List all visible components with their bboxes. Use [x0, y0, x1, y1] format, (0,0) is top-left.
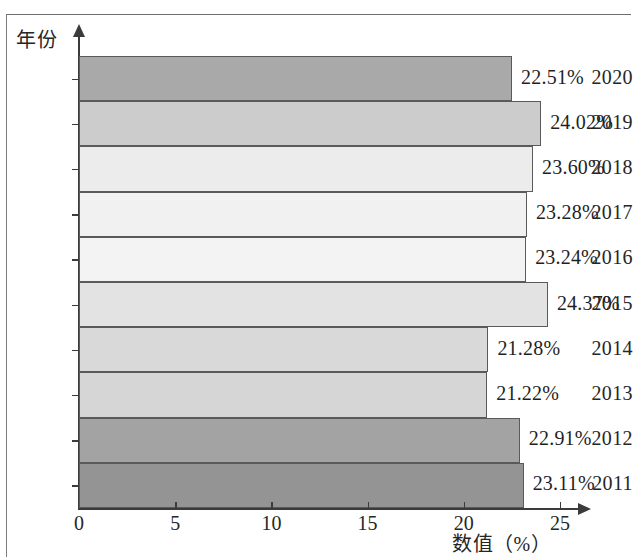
y-tick-mark-2013 [72, 395, 79, 396]
y-tick-mark-2016 [72, 259, 79, 260]
y-tick-label-2014: 2014 [571, 337, 633, 360]
bar-2016 [79, 237, 526, 282]
y-tick-mark-2012 [72, 440, 79, 441]
x-tick-label-10: 10 [251, 512, 291, 535]
value-label-2017: 23.28% [536, 201, 599, 224]
value-label-2015: 24.37% [557, 292, 620, 315]
x-tick-label-5: 5 [155, 512, 195, 535]
y-tick-label-2013: 2013 [571, 382, 633, 405]
bar-2015 [79, 282, 548, 327]
value-label-2011: 23.11% [533, 472, 595, 495]
x-tick-mark-15 [368, 502, 369, 509]
bar-2017 [79, 192, 527, 237]
bar-2020 [79, 56, 512, 101]
value-label-2016: 23.24% [535, 246, 598, 269]
bar-2014 [79, 327, 488, 372]
y-tick-mark-2014 [72, 350, 79, 351]
y-tick-mark-2019 [72, 124, 79, 125]
x-tick-label-0: 0 [59, 512, 99, 535]
bar-2011 [79, 463, 524, 508]
bar-2013 [79, 372, 487, 417]
bar-2018 [79, 146, 533, 191]
bar-2019 [79, 101, 541, 146]
y-tick-mark-2015 [72, 305, 79, 306]
value-label-2014: 21.28% [497, 337, 560, 360]
value-label-2019: 24.02% [550, 111, 613, 134]
value-label-2012: 22.91% [529, 427, 592, 450]
y-tick-mark-2018 [72, 169, 79, 170]
value-label-2020: 22.51% [521, 66, 584, 89]
x-tick-label-20: 20 [444, 512, 484, 535]
y-tick-mark-2011 [72, 485, 79, 486]
x-axis-line [78, 508, 582, 510]
y-tick-mark-2017 [72, 214, 79, 215]
plot-area: 年份 数值（%） 2020201920182017201620152014201… [0, 0, 633, 557]
x-tick-mark-5 [175, 502, 176, 509]
x-tick-label-15: 15 [348, 512, 388, 535]
chart-figure: 年份 数值（%） 2020201920182017201620152014201… [0, 0, 633, 557]
y-axis-title: 年份 [16, 24, 58, 53]
value-label-2018: 23.60% [542, 156, 605, 179]
x-tick-mark-25 [560, 502, 561, 509]
x-tick-mark-20 [464, 502, 465, 509]
x-tick-label-25: 25 [540, 512, 580, 535]
y-axis-arrow-icon [73, 24, 85, 37]
bar-2012 [79, 418, 520, 463]
value-label-2013: 21.22% [496, 382, 559, 405]
x-tick-mark-10 [271, 502, 272, 509]
y-tick-mark-2020 [72, 79, 79, 80]
